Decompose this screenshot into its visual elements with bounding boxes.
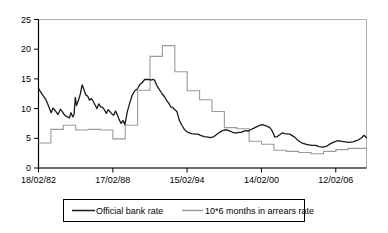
x-tick-label-3: 15/02/94	[170, 175, 205, 185]
x-tick-label-1: 18/02/82	[21, 175, 56, 185]
y-tick-label-15: 15	[21, 74, 31, 84]
x-tick-label-5: 12/02/06	[318, 175, 353, 185]
chart-figure: 0 5 10 15 20 25 18/02/8217/02/8815/02/94…	[0, 0, 388, 233]
y-tick-label-25: 25	[21, 15, 31, 25]
x-tick-label-2: 17/02/88	[95, 175, 130, 185]
y-tick-label-20: 20	[21, 44, 31, 54]
figure-background	[0, 0, 388, 233]
y-tick-label-5: 5	[26, 133, 31, 143]
chart-legend: Official bank rate 10*6 months in arrear…	[64, 200, 315, 222]
legend-label-arrears-rate: 10*6 months in arrears rate	[205, 206, 314, 216]
legend-label-official-bank-rate: Official bank rate	[96, 206, 163, 216]
x-tick-label-4: 14/02/00	[244, 175, 279, 185]
y-tick-label-0: 0	[26, 163, 31, 173]
chart-canvas: 0 5 10 15 20 25 18/02/8217/02/8815/02/94…	[0, 0, 388, 233]
y-tick-label-10: 10	[21, 104, 31, 114]
